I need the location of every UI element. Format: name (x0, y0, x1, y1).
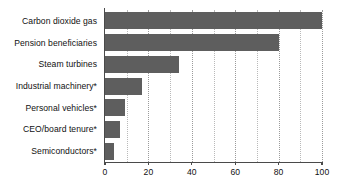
category-label: Semiconductors* (0, 140, 101, 162)
x-tick-mark (148, 162, 149, 165)
bar[interactable] (105, 56, 179, 73)
x-tick-label: 0 (103, 167, 108, 177)
bar[interactable] (105, 34, 279, 51)
bar[interactable] (105, 78, 142, 95)
x-tick-label: 100 (315, 167, 329, 177)
x-tick-mark (278, 162, 279, 165)
bar-series (105, 10, 322, 162)
category-label: Carbon dioxide gas (0, 10, 101, 32)
category-label: CEO/board tenure* (0, 119, 101, 141)
x-tick-mark (191, 162, 192, 165)
x-tick-mark (104, 162, 105, 165)
plot-area (105, 10, 322, 162)
x-tick-mark (321, 162, 322, 165)
x-tick-label: 40 (187, 167, 197, 177)
bar-chart: Carbon dioxide gas Pension beneficiaries… (0, 0, 351, 186)
x-axis-ticks: 020406080100 (105, 162, 322, 186)
bar-row (105, 140, 322, 162)
bar-row (105, 10, 322, 32)
bar[interactable] (105, 143, 114, 160)
category-label: Pension beneficiaries (0, 32, 101, 54)
x-tick-label: 80 (274, 167, 284, 177)
x-tick-mark (235, 162, 236, 165)
x-tick-label: 60 (230, 167, 240, 177)
category-label: Steam turbines (0, 53, 101, 75)
bar-row (105, 97, 322, 119)
category-axis-labels: Carbon dioxide gas Pension beneficiaries… (0, 10, 101, 162)
bar[interactable] (105, 99, 125, 116)
category-label: Personal vehicles* (0, 97, 101, 119)
bar-row (105, 32, 322, 54)
bar[interactable] (105, 121, 120, 138)
bar-row (105, 119, 322, 141)
bar-row (105, 75, 322, 97)
bar-row (105, 53, 322, 75)
category-label: Industrial machinery* (0, 75, 101, 97)
x-tick-label: 20 (144, 167, 154, 177)
gridline (322, 10, 324, 162)
bar[interactable] (105, 12, 322, 29)
